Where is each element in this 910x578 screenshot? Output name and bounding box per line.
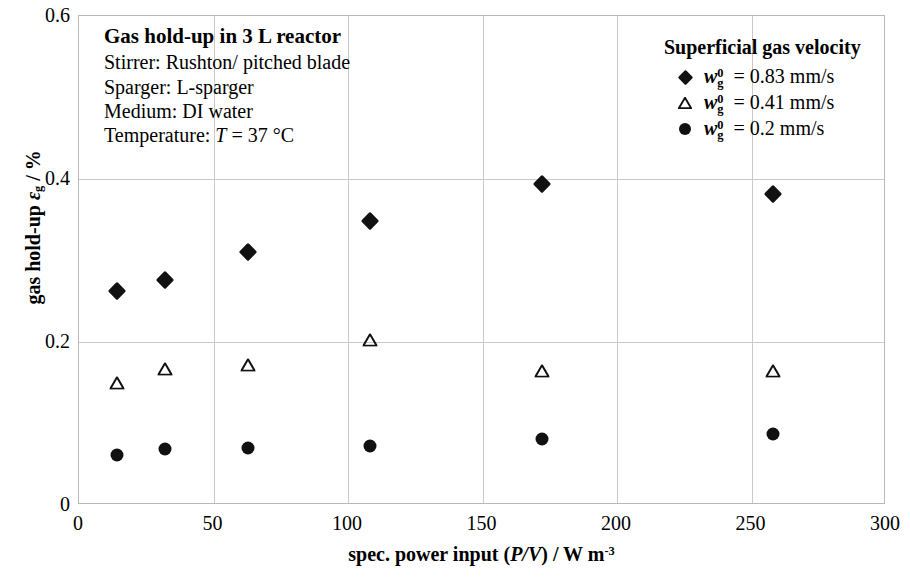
legend-marker-filled-diamond [670,72,700,83]
legend-entry: w0g = 0.2 mm/s [664,116,861,142]
data-point-triangle [362,333,377,346]
data-point-diamond [764,185,782,203]
x-tick-label: 150 [447,512,517,535]
annotation-temperature-value: = 37 °C [226,124,294,146]
legend-marker-open-triangle [670,97,700,109]
data-point-diamond [677,69,693,85]
gridline-vertical [617,16,618,503]
data-point-diamond [107,282,125,300]
annotation-sparger: Sparger: L-sparger [104,75,350,99]
annotation-stirrer: Stirrer: Rushton/ pitched blade [104,50,350,74]
chart-figure: 050100150200250300 00.20.40.6 spec. powe… [0,0,910,578]
data-point-diamond [360,211,378,229]
data-point-circle [679,123,691,135]
data-point-triangle [678,97,692,109]
y-axis-label-prefix: gas hold-up [22,200,44,305]
legend-entry: w0g = 0.41 mm/s [664,90,861,116]
y-axis-label: gas hold-up εg / % [22,17,47,437]
data-point-triangle [158,362,173,375]
y-axis-label-subscript: g [31,186,45,192]
y-tick-label: 0 [14,493,70,516]
x-tick-label: 300 [850,512,910,535]
gridline-vertical [483,16,484,503]
y-axis-label-suffix: / % [22,150,44,186]
x-axis-label-mid: ) / W m [541,543,604,565]
legend-marker-filled-circle [670,123,700,135]
x-axis-label-exponent: -3 [604,544,614,558]
annotation-medium: Medium: DI water [104,99,350,123]
legend-entry-label: w0g = 0.83 mm/s [700,65,834,89]
legend-entry: w0g = 0.83 mm/s [664,64,861,90]
x-axis-label: spec. power input (P/V) / W m-3 [78,543,885,566]
x-tick-label: 200 [581,512,651,535]
data-point-circle [159,442,172,455]
legend-entries: w0g = 0.83 mm/sw0g = 0.41 mm/sw0g = 0.2 … [664,64,861,142]
data-point-circle [110,449,123,462]
legend-entry-label: w0g = 0.2 mm/s [700,117,824,141]
data-point-diamond [532,175,550,193]
x-tick-label: 50 [178,512,248,535]
gridline-horizontal [79,179,884,180]
data-point-circle [535,432,548,445]
annotation-title: Gas hold-up in 3 L reactor [104,24,350,49]
x-axis-label-symbol: P/V [510,543,541,565]
annotation-temperature-label: Temperature: [104,124,215,146]
annotation-temperature-symbol: T [215,124,226,146]
y-axis-label-symbol: ε [22,192,44,200]
data-point-diamond [239,243,257,261]
annotation-block: Gas hold-up in 3 L reactor Stirrer: Rush… [104,24,350,147]
legend-entry-label: w0g = 0.41 mm/s [700,91,834,115]
data-point-triangle [109,376,124,389]
data-point-triangle [534,364,549,377]
annotation-temperature: Temperature: T = 37 °C [104,123,350,147]
data-point-triangle [766,365,781,378]
data-point-circle [767,428,780,441]
data-point-circle [363,440,376,453]
gridline-horizontal [79,342,884,343]
data-point-circle [242,441,255,454]
legend-title: Superficial gas velocity [664,36,861,59]
x-tick-label: 100 [312,512,382,535]
data-point-triangle [241,358,256,371]
legend: Superficial gas velocity w0g = 0.83 mm/s… [664,36,861,142]
x-tick-label: 250 [716,512,786,535]
x-axis-label-prefix: spec. power input ( [348,543,510,565]
data-point-diamond [156,271,174,289]
